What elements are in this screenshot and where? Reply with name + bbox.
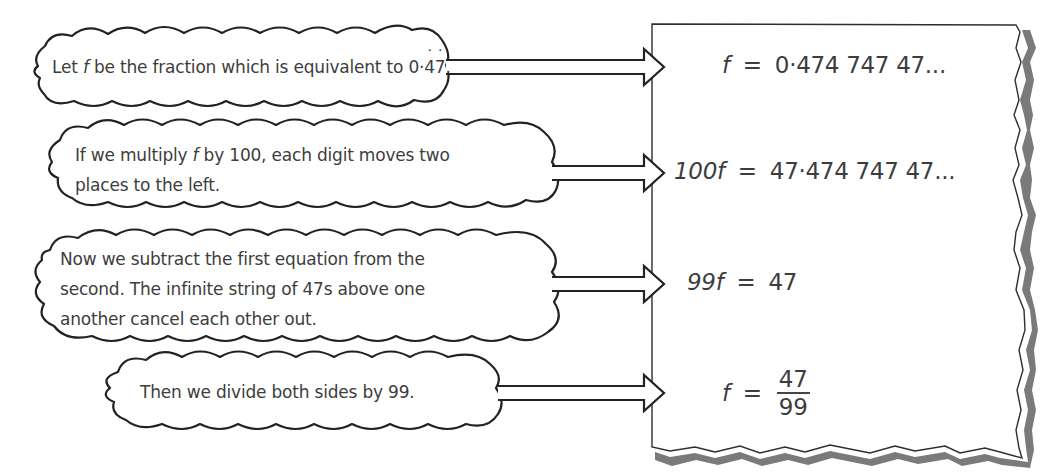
- text-segment: Let: [52, 57, 83, 77]
- text-segment: by 100, each digit moves two: [198, 145, 449, 165]
- fraction-denominator: 99: [777, 394, 810, 420]
- text-segment: If we multiply: [75, 145, 193, 165]
- arrow-right-icon: [446, 49, 664, 85]
- bubble-2-line-2: places to the left.: [75, 170, 450, 200]
- bubble-3-line-3: another cancel each other out.: [60, 304, 425, 334]
- variable-f: f: [722, 52, 730, 78]
- coefficient: 99: [687, 269, 716, 295]
- variable-f: f: [722, 380, 730, 406]
- equals-sign: =: [738, 158, 757, 184]
- equals-sign: =: [737, 269, 756, 295]
- arrow-right-icon: [552, 155, 664, 191]
- bubble-2-line-1: If we multiply f by 100, each digit move…: [75, 140, 450, 170]
- recurring-digit-4: 4: [424, 52, 435, 82]
- variable-f: f: [716, 269, 724, 295]
- bubble-3-line-1: Now we subtract the first equation from …: [60, 244, 425, 274]
- equals-sign: =: [743, 52, 762, 78]
- text-segment: .: [445, 57, 450, 77]
- bubble-4-line-1: Then we divide both sides by 99.: [140, 377, 415, 407]
- equation-4: f = 47 99: [722, 366, 810, 420]
- equation-1: f = 0·474 747 47...: [722, 52, 946, 78]
- bubble-3-text: Now we subtract the first equation from …: [60, 244, 425, 334]
- equation-rhs: 47: [769, 269, 798, 295]
- arrow-right-icon: [552, 266, 664, 302]
- equation-3: 99f = 47: [687, 269, 797, 295]
- text-segment: be the fraction which is equivalent to 0…: [89, 57, 425, 77]
- bubble-1-text: Let f be the fraction which is equivalen…: [52, 52, 451, 82]
- equals-sign: =: [743, 380, 762, 406]
- bubble-4-text: Then we divide both sides by 99.: [140, 377, 415, 407]
- arrow-right-icon: [498, 375, 664, 411]
- bubble-3-line-2: second. The infinite string of 47s above…: [60, 274, 425, 304]
- equation-rhs: 47·474 747 47...: [770, 158, 955, 184]
- paper-sheet: [652, 24, 1025, 458]
- fraction-numerator: 47: [777, 366, 810, 394]
- bubble-2-text: If we multiply f by 100, each digit move…: [75, 140, 450, 200]
- fraction: 47 99: [777, 366, 810, 420]
- coefficient: 100: [674, 158, 717, 184]
- equation-rhs: 0·474 747 47...: [775, 52, 946, 78]
- recurring-digit-7: 7: [435, 52, 446, 82]
- equation-2: 100f = 47·474 747 47...: [674, 158, 955, 184]
- variable-f: f: [717, 158, 725, 184]
